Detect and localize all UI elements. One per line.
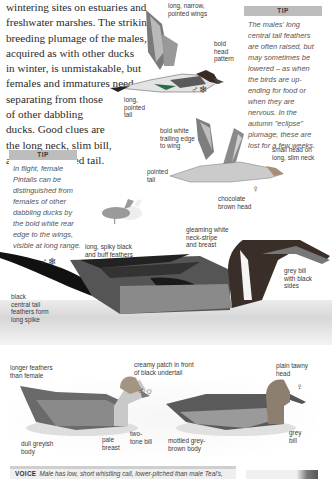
tip-heading: TIP <box>244 6 322 16</box>
label-head-pattern: bold head pattern <box>214 40 234 63</box>
label-female-pointed-tail: pointed tail <box>147 168 168 183</box>
label-black-tail-spike: black central tail feathers form long sp… <box>11 293 49 323</box>
label-pointed-wings: long, narrow, pointed wings <box>168 2 207 17</box>
intro-line: ducks. Good clues are <box>6 122 146 137</box>
label-white-trailing-edge: bold white trailing edge to wing <box>160 127 195 150</box>
label-small-head: small head on long, slim neck <box>272 146 314 161</box>
label-pale-breast: pale breast <box>102 436 120 451</box>
voice-text: Male has low, short whistling call, lowe… <box>39 470 222 477</box>
eclipse-male-symbol: ♂☼ <box>137 385 154 396</box>
male-swimming-illustration <box>0 240 332 340</box>
silhouette-illustration <box>94 195 154 225</box>
label-mottled-body: mottled grey- brown body <box>168 437 205 452</box>
field-guide-page: wintering sites on estuaries and freshwa… <box>0 0 332 479</box>
tip-text: In flight, female Pintails can be distin… <box>9 160 77 251</box>
label-pointed-tail: long, pointed tail <box>124 96 145 119</box>
male-breeding-symbol: ♂❄ <box>40 256 56 267</box>
female-swimming-symbol: ♀ <box>296 381 304 392</box>
female-symbol: ♀ <box>252 183 260 194</box>
label-grey-bill: grey bill with black sides <box>284 267 312 290</box>
label-two-tone-bill: two- tone bill <box>130 430 152 445</box>
tip-box-female-flight: TIP In flight, female Pintails can be di… <box>9 150 77 251</box>
label-plain-tawny-head: plain tawny head <box>276 362 308 377</box>
label-dull-greyish-body: dull greyish body <box>21 440 53 455</box>
label-longer-feathers: longer feathers than female <box>10 364 53 379</box>
tip-heading: TIP <box>9 150 77 160</box>
label-neck-stripe: gleaming white neck-stripe and breast <box>186 226 229 249</box>
eclipse-male-illustration <box>16 376 150 438</box>
habitat-thumbnail <box>246 470 318 479</box>
voice-heading: VOICE <box>15 470 36 477</box>
voice-section: VOICEMale has low, short whistling call,… <box>10 466 236 479</box>
label-spiky-feathers: long, spiky black and buff feathers <box>85 243 133 258</box>
label-chocolate-head: chocolate brown head <box>218 195 251 210</box>
male-winter-symbol: ♂❄ <box>191 84 207 95</box>
label-female-grey-bill: grey bill <box>289 429 301 444</box>
label-creamy-patch: creamy patch in front of black undertail <box>134 361 194 376</box>
